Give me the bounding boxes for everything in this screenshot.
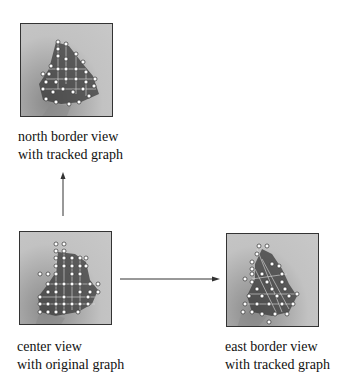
east-caption-line2: with tracked graph	[225, 356, 330, 374]
arrow-right-icon	[118, 274, 220, 284]
east-caption-line1: east border view	[225, 338, 330, 356]
north-caption: north border view with tracked graph	[18, 128, 123, 164]
north-caption-line2: with tracked graph	[18, 146, 123, 164]
center-caption: center view with original graph	[17, 338, 124, 374]
east-border-view-image	[226, 233, 319, 327]
center-caption-line2: with original graph	[17, 356, 124, 374]
arrow-up-icon	[58, 172, 68, 218]
east-caption: east border view with tracked graph	[225, 338, 330, 374]
tracked-graph-north	[21, 24, 113, 117]
center-view-image	[19, 231, 112, 325]
north-border-view-image	[20, 23, 113, 117]
north-caption-line1: north border view	[18, 128, 123, 146]
original-graph-center	[20, 232, 112, 325]
center-caption-line1: center view	[17, 338, 124, 356]
tracked-graph-east	[227, 234, 319, 327]
